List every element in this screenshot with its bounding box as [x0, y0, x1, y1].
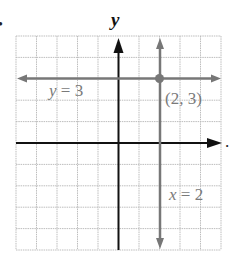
x-axis-label: .	[225, 132, 229, 151]
graph: y • . y = 3 (2, 3) x = 2	[0, 0, 229, 267]
intersection-point	[155, 74, 164, 83]
arrow-right-icon	[211, 75, 221, 83]
y-axis-label: y	[109, 9, 120, 30]
arrow-left-icon	[17, 75, 27, 83]
bullet-mark: •	[0, 17, 3, 32]
arrow-up-icon	[156, 38, 164, 49]
y-axis-arrow-icon	[114, 38, 124, 53]
x-axis-arrow-icon	[207, 138, 222, 148]
label-x-equals-2: x = 2	[168, 185, 203, 204]
arrow-down-icon	[156, 238, 164, 249]
label-point-2-3: (2, 3)	[165, 89, 202, 108]
label-y-equals-3: y = 3	[47, 81, 83, 100]
